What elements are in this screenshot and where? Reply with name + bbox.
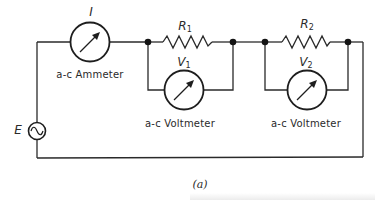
r2-subscript: 2: [309, 23, 314, 32]
junction-node-1: [145, 39, 152, 46]
junction-node-3: [262, 39, 269, 46]
voltmeter-v2-icon: [288, 71, 327, 110]
page-edge-shadow: [190, 193, 375, 200]
v2-right-lead: [327, 42, 348, 90]
v2-left-lead: [265, 42, 287, 90]
voltmeter-v2-caption: a-c Voltmeter: [271, 118, 341, 129]
v1-letter: V: [177, 55, 185, 69]
resistor-r1-icon: [163, 36, 212, 48]
ammeter-symbol-label: I: [89, 5, 93, 19]
v1-right-lead: [204, 42, 233, 90]
junction-node-2: [230, 39, 237, 46]
voltmeter-v1-icon: [165, 71, 204, 110]
v1-subscript: 1: [186, 61, 191, 70]
r1-subscript: 1: [187, 25, 192, 34]
resistor-r2-label: R2: [300, 17, 313, 32]
junction-node-4: [345, 39, 352, 46]
figure-caption: (a): [192, 178, 207, 191]
bottom-wire: [37, 157, 363, 158]
resistor-r2-icon: [282, 36, 330, 48]
v1-left-lead: [148, 42, 164, 90]
v2-letter: V: [299, 55, 307, 69]
source-label: E: [14, 123, 22, 137]
voltmeter-v1-caption: a-c Voltmeter: [145, 118, 215, 129]
voltmeter-v1-label: V1: [177, 55, 190, 70]
ac-source-icon: [29, 123, 46, 140]
ammeter-icon: [71, 23, 110, 62]
ammeter-caption: a-c Ammeter: [56, 69, 123, 80]
resistor-r1-label: R1: [178, 19, 191, 34]
voltmeter-v2-label: V2: [299, 55, 312, 70]
v2-subscript: 2: [308, 61, 313, 70]
